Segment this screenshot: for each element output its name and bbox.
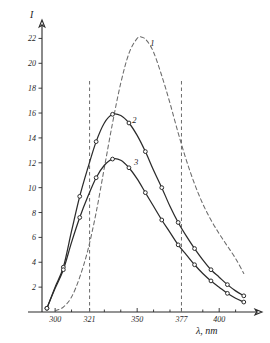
data-point-marker — [209, 268, 213, 272]
data-point-marker — [176, 221, 180, 225]
data-point-marker — [193, 247, 197, 251]
x-axis-tick-labels: 300321350377400 — [48, 315, 225, 324]
data-point-marker — [143, 191, 147, 195]
chart-svg: 246810121416182022 300321350377400 123 I… — [0, 0, 270, 343]
curve-label-3: 3 — [133, 157, 138, 167]
x-axis-title: λ, nm — [195, 325, 218, 336]
x-tick-label: 321 — [83, 315, 96, 324]
data-point-marker — [225, 283, 229, 287]
y-tick-label: 14 — [28, 134, 36, 143]
data-point-marker — [160, 218, 164, 222]
data-point-marker — [160, 186, 164, 190]
data-point-marker — [225, 291, 229, 295]
data-point-marker — [193, 263, 197, 267]
data-point-marker — [94, 140, 98, 144]
y-tick-label: 16 — [28, 109, 36, 118]
y-tick-label: 6 — [32, 233, 36, 242]
y-tick-label: 4 — [32, 258, 36, 267]
y-axis-tick-labels: 246810121416182022 — [28, 34, 36, 292]
data-point-markers-group — [45, 112, 246, 310]
x-tick-label: 377 — [174, 315, 188, 324]
data-point-marker — [61, 268, 65, 272]
y-axis-title: I — [29, 9, 34, 20]
data-point-marker — [78, 216, 82, 220]
data-point-marker — [78, 194, 82, 198]
x-tick-label: 400 — [213, 315, 225, 324]
x-tick-label: 350 — [130, 315, 143, 324]
curve-label-1: 1 — [150, 38, 154, 48]
y-tick-label: 2 — [32, 283, 36, 292]
y-tick-label: 8 — [32, 209, 36, 218]
curve-label-2: 2 — [132, 115, 137, 125]
curves-group — [47, 37, 244, 311]
y-tick-label: 10 — [28, 184, 36, 193]
data-point-marker — [242, 294, 246, 298]
data-point-marker — [94, 176, 98, 180]
data-point-marker — [45, 306, 49, 310]
y-tick-label: 20 — [28, 59, 36, 68]
data-point-marker — [209, 279, 213, 283]
curve-2 — [47, 114, 244, 309]
curve-3 — [47, 159, 244, 309]
data-point-marker — [127, 166, 131, 170]
data-point-marker — [176, 243, 180, 247]
spectral-chart-figure: 246810121416182022 300321350377400 123 I… — [0, 0, 270, 343]
x-axis-ticks — [55, 308, 219, 312]
data-point-marker — [111, 157, 115, 161]
data-point-marker — [242, 300, 246, 304]
data-point-marker — [127, 121, 131, 125]
data-point-marker — [111, 112, 115, 116]
data-point-marker — [143, 150, 147, 154]
curve-1 — [55, 37, 244, 311]
y-tick-label: 18 — [28, 84, 36, 93]
y-tick-label: 22 — [28, 34, 36, 43]
y-tick-label: 12 — [28, 159, 36, 168]
x-tick-label: 300 — [48, 315, 61, 324]
